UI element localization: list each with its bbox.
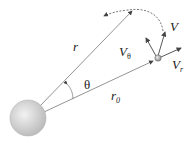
orbiting-body	[155, 55, 161, 61]
orbit-diagram: r θ r0 Vθ V Vr	[0, 0, 191, 150]
vr-vector	[161, 48, 181, 57]
label-vr: Vr	[172, 58, 183, 74]
planet	[10, 100, 46, 136]
diagram-graphics	[0, 0, 191, 150]
trajectory-arc	[104, 9, 163, 31]
theta-arc	[67, 84, 73, 99]
label-vtheta: Vθ	[119, 45, 131, 61]
label-r0: r0	[111, 89, 120, 105]
vtheta-vector	[146, 38, 156, 56]
label-r: r	[73, 40, 78, 53]
v-vector	[158, 32, 165, 56]
r0-vector	[44, 61, 153, 112]
label-theta: θ	[84, 78, 90, 91]
label-v: V	[170, 20, 178, 33]
